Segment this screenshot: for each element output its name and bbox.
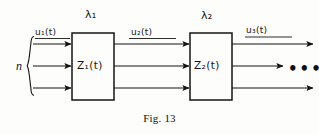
signal-u3-label: u₃(t)	[246, 26, 267, 35]
intermediate-signal-lines	[114, 44, 189, 88]
signal-label-underlines	[35, 37, 292, 39]
block-2-label: Z₂(t)	[194, 60, 220, 71]
block-1-rate-label: λ₁	[85, 9, 97, 20]
block-2-rate-label: λ₂	[201, 10, 213, 21]
continuation-ellipsis: •••	[288, 62, 319, 77]
signal-u1-label: u₁(t)	[35, 28, 56, 37]
figure-caption: Fig. 13	[0, 112, 319, 124]
figure-13: n λ₁ λ₂ Z₁(t) Z₂(t) u₁(t) u₂(t) u₃(t) ••…	[0, 0, 319, 135]
block-1-label: Z₁(t)	[77, 60, 103, 71]
input-count-label: n	[16, 60, 22, 72]
input-brace	[27, 37, 33, 96]
signal-u2-label: u₂(t)	[131, 28, 152, 37]
input-signal-lines	[33, 44, 71, 88]
